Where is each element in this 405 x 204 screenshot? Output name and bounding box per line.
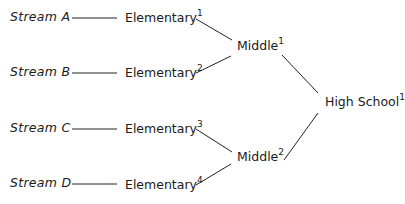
node-elementary-2: Elementary2: [125, 67, 203, 80]
node-middle-1: Middle1: [237, 40, 284, 53]
edge-middle1-high: [282, 55, 318, 93]
node-middle-2: Middle2: [237, 151, 284, 164]
node-stream-b: Stream B: [10, 66, 70, 79]
node-stream-d: Stream D: [10, 177, 72, 190]
node-elementary-4: Elementary4: [125, 179, 203, 192]
node-elementary-1: Elementary1: [125, 12, 203, 25]
node-stream-c: Stream C: [10, 122, 71, 135]
node-elementary-3: Elementary3: [125, 123, 203, 136]
edge-middle2-high: [284, 113, 318, 160]
node-stream-a: Stream A: [10, 11, 70, 24]
node-high-school-1: High School1: [325, 96, 405, 109]
